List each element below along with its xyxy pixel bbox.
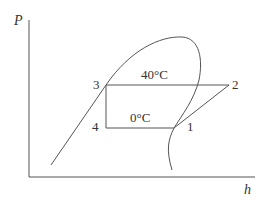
compression-line-1-2 [174, 85, 229, 128]
state-label-2: 2 [232, 77, 239, 92]
state-label-3: 3 [93, 77, 100, 92]
state-label-1: 1 [187, 119, 194, 134]
x-axis-label: h [244, 182, 251, 197]
condensing-temp-label: 40°C [141, 67, 168, 82]
saturation-dome [51, 37, 201, 170]
y-axis-label: P [13, 13, 23, 28]
state-label-4: 4 [92, 119, 99, 134]
evaporating-temp-label: 0°C [130, 110, 150, 125]
ph-diagram: P h 3 2 4 1 40°C 0°C [0, 0, 267, 205]
